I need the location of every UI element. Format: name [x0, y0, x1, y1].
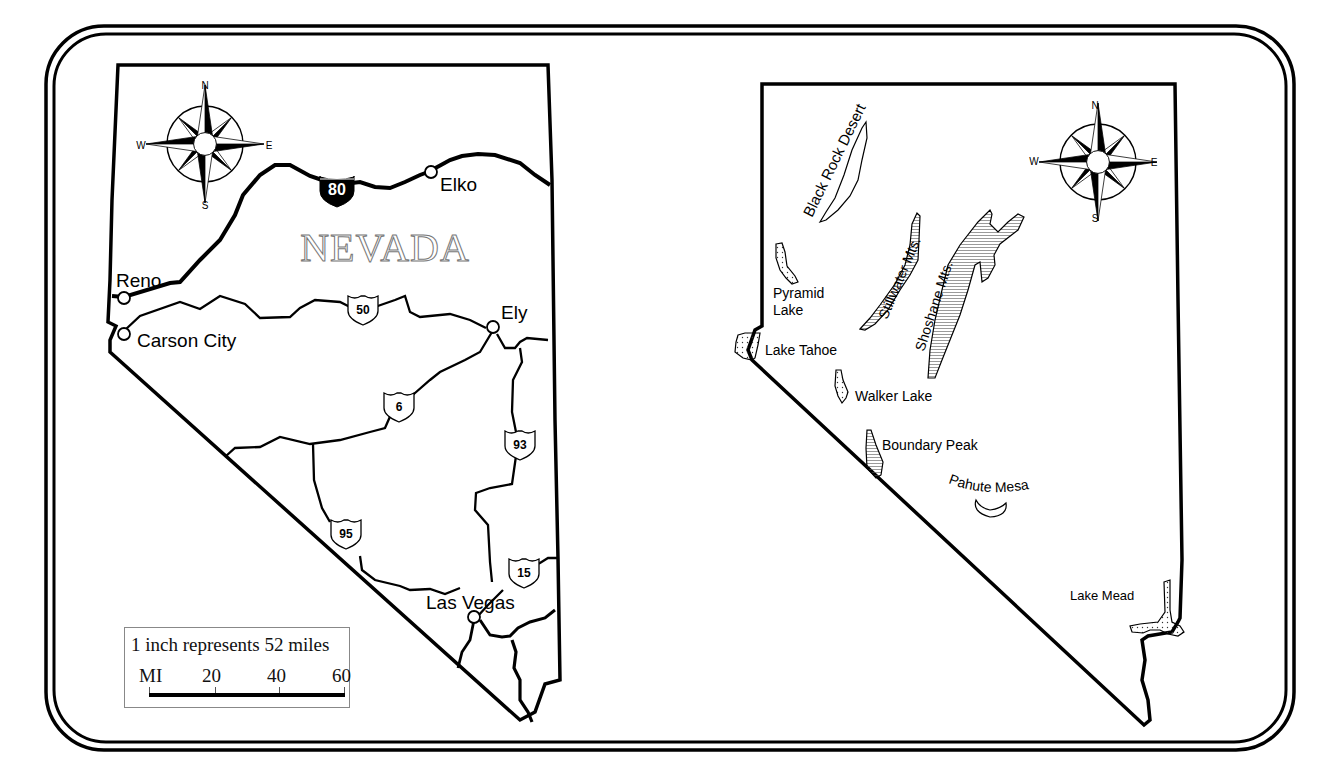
reno-label: Reno — [116, 270, 161, 291]
lake-mead-label: Lake Mead — [1070, 588, 1134, 603]
compass-w-right: W — [1029, 156, 1039, 167]
compass-n: N — [201, 80, 208, 91]
left-nevada-map: 80 50 6 93 95 15 Reno Carson City Elko — [108, 65, 560, 722]
lake-tahoe-label: Lake Tahoe — [765, 342, 837, 358]
walker-lake-label: Walker Lake — [855, 388, 933, 404]
us-6-road — [226, 332, 492, 456]
scale-tick-20: 20 — [202, 665, 221, 687]
svg-text:Pahute Mesa: Pahute Mesa — [947, 471, 1030, 495]
compass-e: E — [266, 140, 273, 151]
svg-text:95: 95 — [339, 527, 353, 541]
las-vegas-label: Las Vegas — [426, 592, 515, 613]
compass-e-right: E — [1151, 157, 1158, 168]
elko-label: Elko — [440, 174, 477, 195]
ely-label: Ely — [501, 302, 528, 323]
svg-text:93: 93 — [513, 438, 527, 452]
state-title: NEVADA — [300, 225, 470, 270]
us-95-shield: 95 — [331, 520, 361, 549]
lake-label: Lake — [773, 302, 804, 318]
scale-tick-40: 40 — [267, 665, 286, 687]
lake-mead-shape — [1130, 580, 1184, 636]
elko-dot — [425, 166, 437, 178]
svg-text:50: 50 — [356, 303, 370, 317]
reno-dot — [118, 292, 130, 304]
carson-city-dot — [118, 328, 130, 340]
southern-river-border — [512, 640, 532, 722]
svg-text:6: 6 — [396, 400, 403, 414]
boundary-peak-label: Boundary Peak — [882, 437, 979, 453]
colorado-river-border — [480, 610, 555, 637]
scale-bar — [149, 693, 345, 697]
pahute-mesa-shape — [975, 500, 1006, 517]
svg-text:15: 15 — [517, 566, 531, 580]
southern-road — [458, 620, 474, 668]
compass-rose-icon-right — [1039, 103, 1157, 221]
scale-tick-60: 60 — [332, 665, 351, 687]
interstate-80-shield: 80 — [320, 176, 354, 207]
stillwater-mts-label: Stillwater Mts. — [875, 235, 924, 321]
map-scale-legend: 1 inch represents 52 miles MI 20 40 60 — [124, 627, 350, 708]
compass-rose-icon — [146, 85, 264, 203]
pahute-mesa-label: Pahute Mesa — [947, 471, 1030, 495]
us-93-shield: 93 — [505, 431, 535, 460]
compass-w: W — [136, 140, 146, 151]
us-15-shield: 15 — [509, 559, 539, 588]
scale-unit: MI — [139, 665, 162, 687]
pyramid-lake-shape — [776, 243, 798, 284]
carson-city-label: Carson City — [137, 330, 237, 351]
interstate-80-label: 80 — [328, 181, 346, 198]
us-95-road — [313, 444, 460, 594]
pyramid-label: Pyramid — [773, 285, 824, 301]
us-50-shield: 50 — [348, 296, 378, 325]
compass-n-right: N — [1091, 100, 1098, 111]
map-worksheet: 80 50 6 93 95 15 Reno Carson City Elko — [0, 0, 1336, 780]
right-nevada-map: Black Rock Desert Pyramid Lake Stillwate… — [735, 84, 1184, 725]
scale-title: 1 inch represents 52 miles — [131, 634, 329, 656]
us-93-road — [475, 334, 548, 582]
lake-tahoe-shape — [735, 333, 760, 360]
walker-lake-shape — [835, 370, 848, 403]
compass-s: S — [202, 200, 209, 211]
ely-dot — [487, 321, 499, 333]
us-50-road — [125, 296, 486, 330]
compass-s-right: S — [1092, 213, 1099, 224]
